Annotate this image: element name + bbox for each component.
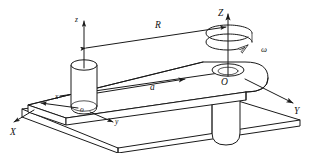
acceleration-label: a [150, 82, 155, 92]
radius-dimension-line [86, 27, 226, 48]
radius-label: R [154, 20, 161, 30]
local-origin-label: o [80, 105, 84, 114]
global-origin-label: O [221, 77, 228, 87]
global-x-label: X [9, 127, 17, 137]
diagram-canvas: a Z ω Y O [0, 0, 314, 153]
engineering-diagram: a Z ω Y O [0, 0, 314, 153]
local-y-label: y [114, 117, 119, 126]
local-z-label: z [74, 15, 78, 24]
local-x-label: x [54, 92, 59, 101]
global-z-label: Z [218, 8, 224, 18]
global-y-label: Y [294, 106, 301, 116]
angular-velocity-label: ω [261, 44, 267, 54]
